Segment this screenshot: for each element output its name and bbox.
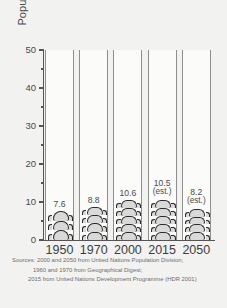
chart-figure: Population (millions) 01020304050 7.68.8… — [0, 0, 227, 308]
bar-column[interactable] — [182, 50, 211, 240]
sources-line-1: Sources: 2000 and 2050 from United Natio… — [0, 256, 227, 266]
y-tick-major — [39, 163, 44, 164]
person-figure-icon — [151, 216, 176, 224]
person-figure-icon — [48, 211, 73, 221]
person-figure-icon — [151, 224, 176, 232]
y-tick-label: 10 — [10, 197, 36, 207]
y-tick-label: 30 — [10, 121, 36, 131]
person-figure-icon — [185, 209, 210, 217]
y-tick-major — [39, 125, 44, 126]
person-figure-icon — [116, 208, 141, 216]
sources-line-2: 1960 and 1970 from Geographical Digest; — [0, 266, 227, 276]
bar-1950[interactable] — [48, 211, 73, 240]
bar-value-estimate-note: (est.) — [176, 197, 216, 206]
bar-1970[interactable] — [82, 207, 107, 240]
bar-column[interactable] — [79, 50, 108, 240]
bar-value-number: 7.6 — [54, 199, 66, 209]
bar-column[interactable] — [45, 50, 74, 240]
person-figure-icon — [48, 221, 73, 231]
bar-value-number: 10.6 — [120, 188, 137, 198]
person-figure-icon — [116, 232, 141, 240]
sources-note: Sources: 2000 and 2050 from United Natio… — [0, 256, 227, 285]
bar-value-number: 8.8 — [88, 195, 100, 205]
y-tick-minor — [41, 144, 44, 145]
person-figure-icon — [116, 216, 141, 224]
bar-column[interactable] — [113, 50, 142, 240]
y-tick-label: 20 — [10, 159, 36, 169]
person-figure-icon — [151, 232, 176, 240]
bar-value-label: 8.2(est.) — [176, 188, 216, 206]
bar-2000[interactable] — [116, 200, 141, 240]
x-tick-label-2050: 2050 — [174, 243, 218, 257]
y-tick-minor — [41, 106, 44, 107]
y-tick-minor — [41, 182, 44, 183]
person-figure-icon — [116, 200, 141, 208]
y-tick-major — [39, 239, 44, 240]
bar-column[interactable] — [148, 50, 177, 240]
person-figure-icon — [48, 230, 73, 240]
y-tick-label: 0 — [10, 235, 36, 245]
sources-line-3: 2015 from United Nations Development Pro… — [0, 275, 227, 285]
y-tick-major — [39, 49, 44, 50]
person-figure-icon — [151, 208, 176, 216]
y-tick-label: 50 — [10, 45, 36, 55]
person-figure-icon — [185, 232, 210, 240]
person-figure-icon — [82, 207, 107, 215]
x-axis-line — [43, 240, 215, 241]
person-figure-icon — [82, 215, 107, 223]
person-figure-icon — [82, 223, 107, 231]
bar-2015[interactable] — [151, 200, 176, 240]
y-tick-label: 40 — [10, 83, 36, 93]
y-tick-minor — [41, 68, 44, 69]
y-tick-minor — [41, 220, 44, 221]
person-figure-icon — [185, 224, 210, 232]
y-tick-major — [39, 87, 44, 88]
person-figure-icon — [116, 224, 141, 232]
person-figure-icon — [185, 217, 210, 225]
person-figure-icon — [151, 200, 176, 208]
person-figure-icon — [82, 232, 107, 240]
bar-2050[interactable] — [185, 209, 210, 240]
